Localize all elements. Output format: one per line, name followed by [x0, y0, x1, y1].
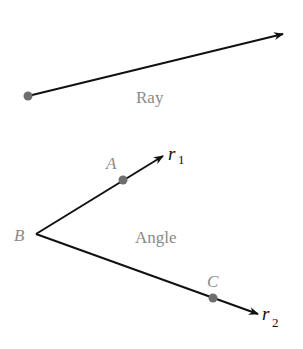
- ray-endpoint-dot: [24, 92, 33, 101]
- svg-text:r: r: [168, 143, 176, 164]
- svg-text:2: 2: [272, 315, 279, 330]
- angle-label: Angle: [135, 228, 177, 247]
- svg-text:1: 1: [178, 152, 185, 167]
- angle-figure: B A C Angle r 1 r 2: [14, 143, 279, 330]
- ray-figure: Ray: [24, 34, 284, 107]
- ray-r2-label: r 2: [262, 303, 279, 330]
- point-a-label: A: [105, 154, 117, 173]
- ray-line: [28, 34, 283, 96]
- svg-text:r: r: [262, 303, 270, 324]
- ray-angle-diagram: Ray B A C Angle r 1 r 2: [0, 0, 303, 349]
- ray-r1-line: [36, 156, 163, 234]
- ray-r1-label: r 1: [168, 143, 185, 167]
- point-c-label: C: [207, 272, 219, 291]
- point-c-dot: [209, 294, 218, 303]
- vertex-b-label: B: [14, 226, 25, 245]
- point-a-dot: [119, 176, 128, 185]
- ray-label: Ray: [136, 88, 164, 107]
